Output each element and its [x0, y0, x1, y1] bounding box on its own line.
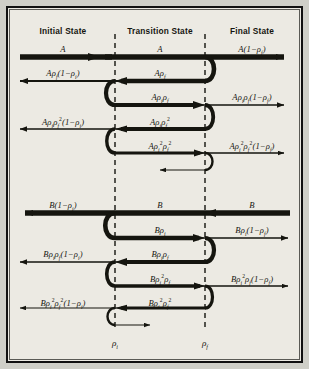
label-B-final: B — [249, 200, 254, 210]
label-B-mid2: Bρiρf — [151, 249, 168, 261]
label-B-right1: Bρi(1−ρf) — [235, 225, 268, 237]
label-B-transition: B — [157, 200, 162, 210]
label-A-trans2-right: Aρiρf(1−ρf) — [232, 92, 271, 104]
header-transition-state: Transition State — [127, 26, 192, 36]
label-B-mid1: Bρi — [154, 225, 165, 237]
label-A-refl2-left: Aρiρf2(1−ρi) — [42, 116, 84, 129]
label-B-mid4: Bρi2ρf2 — [148, 297, 171, 310]
label-B-right3: Bρi2ρf(1−ρf) — [231, 273, 273, 286]
ray-B-terminator — [108, 308, 151, 325]
ray-B-uturn-4 — [205, 286, 213, 308]
ray-B-uturn-2 — [205, 238, 214, 262]
ray-A-uturn-2 — [106, 81, 115, 105]
ray-A-uturn-3 — [205, 105, 213, 129]
label-B-left2: Bρiρf(1−ρi) — [43, 249, 82, 261]
label-A-final: A(1−ρf) — [238, 44, 265, 56]
ray-A-uturn-4 — [107, 129, 115, 153]
axis-label-rho-f: ρf — [202, 338, 208, 350]
label-A-trans2-mid: Aρiρf — [151, 92, 168, 104]
label-A-refl1-left: Aρf(1−ρi) — [46, 68, 79, 80]
label-B-left: B(1−ρi) — [49, 200, 76, 212]
label-A-transition: A — [157, 44, 162, 54]
ray-B-uturn-3 — [107, 262, 115, 286]
ray-A-uturn-1 — [205, 57, 214, 81]
ray-A-incident-midarrow — [88, 53, 100, 61]
label-B-mid3: Bρi2ρf — [150, 273, 170, 286]
header-final-state: Final State — [230, 26, 274, 36]
label-A-trans3-mid: Aρi2ρf2 — [148, 140, 171, 153]
label-A-initial: A — [60, 44, 65, 54]
label-A-refl1-mid: Aρf — [154, 68, 165, 80]
header-initial-state: Initial State — [40, 26, 87, 36]
figure-root: Initial State Transition State Final Sta… — [0, 0, 309, 369]
axis-label-rho-i: ρi — [112, 338, 118, 350]
label-B-left4: Bρi2ρf2(1−ρi) — [40, 297, 85, 310]
ray-B-uturn-1 — [105, 213, 115, 238]
label-A-refl2-mid: Aρiρf2 — [150, 116, 170, 129]
label-A-trans3-right: Aρi2ρf2(1−ρf) — [229, 140, 274, 153]
